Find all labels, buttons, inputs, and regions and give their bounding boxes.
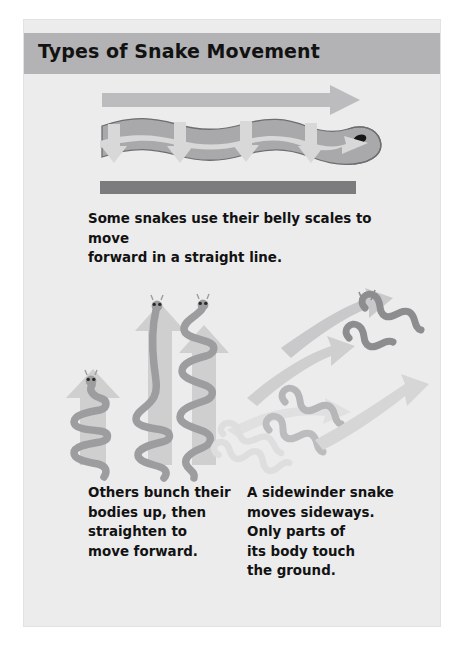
- snake-concertina-diagram: [44, 265, 224, 470]
- direction-arrow-right: [102, 85, 360, 115]
- sidewinder-svg: [219, 280, 440, 475]
- snake-straight-line-diagram: [24, 88, 440, 203]
- snake-sidewinder-diagram: [219, 280, 440, 475]
- page-sheet: Types of Snake Movement: [24, 20, 440, 626]
- concertina-svg: [44, 265, 224, 470]
- page-title: Types of Snake Movement: [38, 40, 320, 62]
- concertina-stage-2: [135, 295, 185, 478]
- caption-concertina: Others bunch their bodies up, then strai…: [88, 483, 238, 561]
- ground-bar: [100, 181, 356, 194]
- caption-straight-line: Some snakes use their belly scales to mo…: [88, 209, 398, 268]
- snake-eye: [158, 303, 161, 306]
- snake-eye: [92, 378, 95, 381]
- concertina-stage-1: [66, 369, 120, 477]
- snake-eye: [204, 302, 207, 305]
- header-band: Types of Snake Movement: [24, 33, 440, 74]
- snake-eye: [87, 378, 90, 381]
- caption-sidewinder: A sidewinder snake moves sideways. Only …: [247, 483, 412, 581]
- snake-eye: [153, 303, 156, 306]
- snake-eye: [199, 302, 202, 305]
